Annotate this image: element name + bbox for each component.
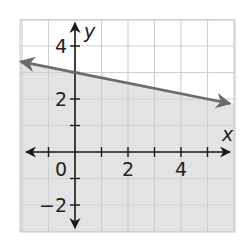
origin-label: 0 [55, 158, 67, 180]
y-axis-label: y [83, 20, 96, 42]
x-tick-label: 4 [175, 158, 187, 180]
x-tick-label: 2 [122, 158, 134, 180]
y-tick-label: −2 [39, 194, 67, 216]
inequality-graph: x y 0 24−224 [0, 0, 250, 245]
y-tick-label: 2 [55, 88, 67, 110]
x-axis-label: x [221, 123, 234, 145]
y-tick-label: 4 [55, 35, 67, 57]
